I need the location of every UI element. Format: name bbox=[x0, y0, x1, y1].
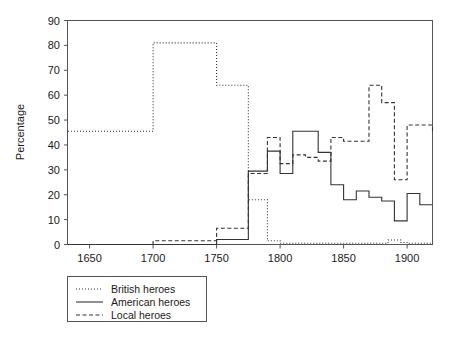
legend-label: American heroes bbox=[111, 296, 190, 308]
x-tick-label: 1700 bbox=[141, 252, 165, 264]
x-tick-label: 1750 bbox=[204, 252, 228, 264]
y-tick-label: 70 bbox=[48, 64, 60, 76]
legend-label: British heroes bbox=[111, 283, 175, 295]
x-tick-label: 1850 bbox=[331, 252, 355, 264]
y-tick-label: 90 bbox=[48, 15, 60, 27]
x-tick-label: 1650 bbox=[77, 252, 101, 264]
y-axis-title: Percentage bbox=[14, 104, 26, 160]
y-tick-label: 30 bbox=[48, 164, 60, 176]
x-tick-label: 1800 bbox=[268, 252, 292, 264]
y-tick-label: 40 bbox=[48, 139, 60, 151]
chart-figure: 0102030405060708090 16501700175018001850… bbox=[0, 0, 449, 341]
y-tick-label: 60 bbox=[48, 89, 60, 101]
y-tick-label: 80 bbox=[48, 39, 60, 51]
x-tick-label: 1900 bbox=[395, 252, 419, 264]
y-tick-label: 50 bbox=[48, 114, 60, 126]
legend-label: Local heroes bbox=[111, 309, 171, 321]
y-tick-label: 20 bbox=[48, 189, 60, 201]
y-tick-label: 10 bbox=[48, 214, 60, 226]
percentage-of-heroes-step-chart: 0102030405060708090 16501700175018001850… bbox=[0, 0, 449, 341]
y-tick-label: 0 bbox=[54, 239, 60, 251]
